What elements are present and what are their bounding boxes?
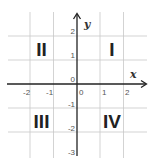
y-tick-label: 2 [71,27,76,36]
x-tick-label: -2 [23,88,31,97]
y-tick-label: -3 [68,148,76,157]
y-tick-label: 1 [71,51,76,60]
y-tick-label: -2 [68,124,76,133]
y-tick-label: 0 [71,75,76,84]
quadrant-II-label: II [36,39,47,60]
x-tick-label: -1 [46,88,54,97]
quadrant-I-label: I [109,39,114,60]
y-tick-label: -1 [68,100,76,109]
quadrant-IV-label: IV [103,111,121,132]
quadrant-III-label: III [34,111,50,132]
y-tick-labels: 2 1 0 -1 -2 -3 [68,27,76,157]
x-axis-label: x [129,68,137,81]
y-axis-label: y [83,18,92,31]
x-tick-label: 2 [125,88,130,97]
axes [7,14,147,157]
x-tick-label: 1 [102,88,107,97]
coordinate-plane: x y -2 -1 0 1 2 2 1 0 -1 -2 -3 I II III … [0,0,154,168]
x-tick-label: 0 [79,88,84,97]
